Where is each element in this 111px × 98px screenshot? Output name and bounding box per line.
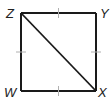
vertex-label-z: Z xyxy=(5,6,15,21)
diagonal-zx xyxy=(21,13,96,91)
vertex-label-w: W xyxy=(4,85,18,98)
vertex-label-x: X xyxy=(97,85,108,98)
square-diagram: Z Y W X xyxy=(0,0,111,98)
vertex-label-y: Y xyxy=(100,6,110,21)
